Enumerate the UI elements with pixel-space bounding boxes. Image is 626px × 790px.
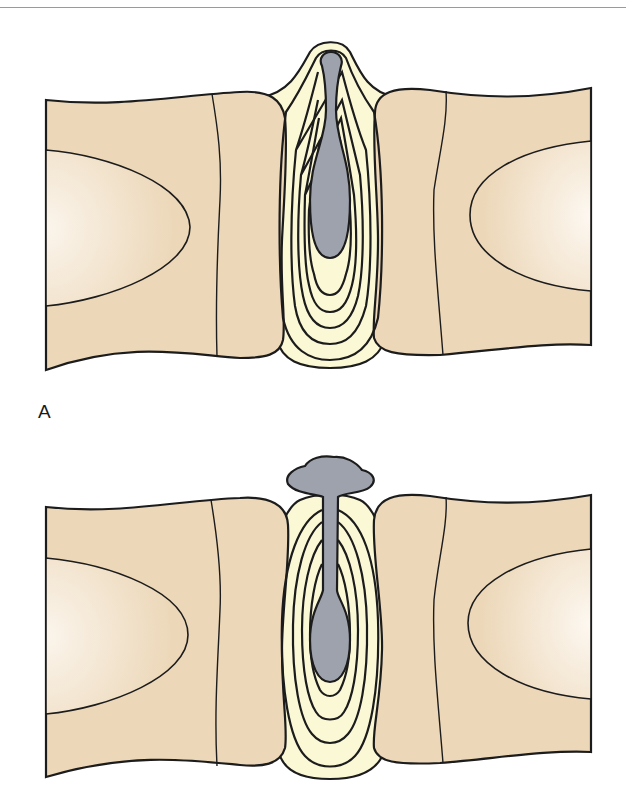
right-vertebra-b bbox=[374, 495, 591, 764]
left-vertebra-b bbox=[46, 498, 288, 777]
panel-a bbox=[46, 42, 591, 370]
panel-b bbox=[46, 456, 591, 779]
right-vertebra-a bbox=[374, 88, 591, 355]
disc-herniation-diagram: A bbox=[0, 0, 626, 790]
left-vertebra-a bbox=[46, 92, 286, 370]
panel-a-label: A bbox=[38, 401, 51, 422]
